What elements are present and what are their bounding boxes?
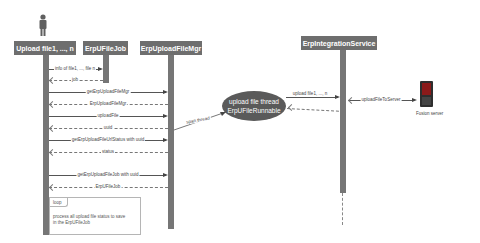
arrow-head: [348, 97, 355, 104]
message-label: ErpUFileJob: [95, 184, 122, 189]
arrow-head: [412, 98, 417, 102]
message-label: getErpUploadFileMgr: [86, 89, 131, 94]
loop-note-line-2: in the ErpUFileJob: [53, 220, 90, 226]
lifeline-erp-ufile-job: [103, 55, 109, 83]
arrow-head: [49, 125, 56, 132]
message-label: getErpUploadFileUrlStatus with uuid: [71, 137, 145, 142]
lifeline-erp-integration-service: [340, 50, 346, 193]
actor-upload-files: Upload file1, ..., n: [14, 41, 76, 55]
person-icon: [38, 14, 48, 38]
message-label: uploadFile: [97, 113, 120, 118]
message-label: info of file1, ..., file n: [54, 66, 96, 71]
message-label: getErpUploadFileJob with uuid: [76, 172, 139, 177]
arrow-head: [163, 173, 168, 177]
arrow-head: [163, 138, 168, 142]
thread-label-2: ErpUFileRunnable: [227, 106, 280, 115]
lifeline-dashed-tail: [342, 193, 343, 225]
arrow-head: [98, 67, 103, 71]
server-label: Fusion server: [416, 111, 443, 116]
message-upload-files-to-service: [286, 97, 338, 98]
loop-tab: loop: [50, 198, 68, 207]
arrow-head: [49, 101, 56, 108]
message-label: status: [101, 149, 115, 154]
thread-ellipse: upload file thread ErpUFileRunnable: [222, 91, 286, 121]
arrow-head: [49, 149, 56, 156]
message-service-return: [287, 108, 339, 112]
arrow-head: [335, 95, 340, 99]
arrow-head: [49, 77, 56, 84]
actor-erp-ufile-job: ErpUFileJob: [83, 41, 128, 55]
arrow-head: [288, 104, 295, 111]
actor-erp-upload-file-mgr: ErpUploadFileMgr: [140, 41, 202, 55]
message-label: uploadFileToServer: [361, 97, 402, 102]
message-label: job: [71, 77, 79, 82]
arrow-head: [49, 184, 56, 191]
message-label: uuid: [103, 125, 114, 130]
lifeline-erp-upload-file-mgr: [168, 55, 174, 229]
arrow-head: [163, 114, 168, 118]
actor-erp-integration-service: ErpIntegrationService: [301, 36, 377, 50]
server-icon: [419, 80, 434, 108]
message-label: upload file1, ..., n: [292, 91, 328, 96]
loop-note: loop process all upload file status to s…: [49, 197, 141, 235]
thread-label-1: upload file thread: [229, 97, 279, 106]
message-label: ErpUploadFileMgr: [89, 101, 127, 106]
arrow-head: [163, 90, 168, 94]
